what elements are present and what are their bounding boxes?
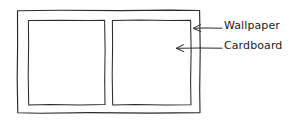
outer-frame-wallpaper xyxy=(17,10,200,113)
annotation-label-cardboard: Cardboard xyxy=(224,40,282,51)
leader-arrow-cardboard xyxy=(176,45,222,52)
diagram-canvas: Wallpaper Cardboard xyxy=(0,0,300,122)
annotation-label-wallpaper: Wallpaper xyxy=(224,20,280,31)
inner-panel-left-cardboard xyxy=(28,20,105,105)
inner-panel-right-cardboard xyxy=(112,20,191,105)
leader-arrow-wallpaper xyxy=(193,25,222,32)
